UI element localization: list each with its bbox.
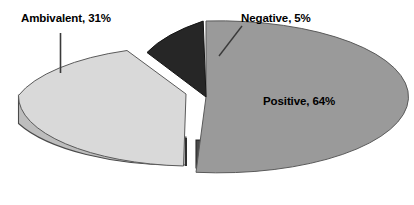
slice-label-positive: Positive, 64%: [263, 95, 335, 108]
pie-chart-graphic: [0, 0, 414, 205]
pie-chart: Ambivalent, 31% Negative, 5% Positive, 6…: [0, 0, 414, 205]
slice-label-ambivalent: Ambivalent, 31%: [21, 12, 111, 25]
slice-label-negative: Negative, 5%: [241, 12, 311, 25]
slice-top-ambivalent: [18, 51, 186, 167]
